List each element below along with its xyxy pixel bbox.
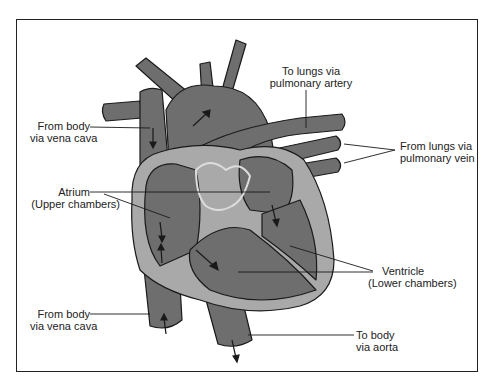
label-vena-cava-upper: From body via vena cava [30,120,90,144]
label-pulmonary-vein: From lungs via pulmonary vein [400,140,475,164]
leader-pulmonary-vein-a [344,144,395,150]
label-vena-cava-lower: From body via vena cava [30,308,90,332]
label-ventricle: Ventricle (Lower chambers) [378,265,457,289]
aortic-branch-right [222,40,246,92]
leader-pulmonary-vein-b [344,150,395,163]
label-atrium: Atrium (Upper chambers) [20,186,120,210]
label-aorta: To body via aorta [356,329,398,353]
label-pulmonary-artery: To lungs via pulmonary artery [266,65,356,89]
vena-cava-side-branch [102,101,142,121]
